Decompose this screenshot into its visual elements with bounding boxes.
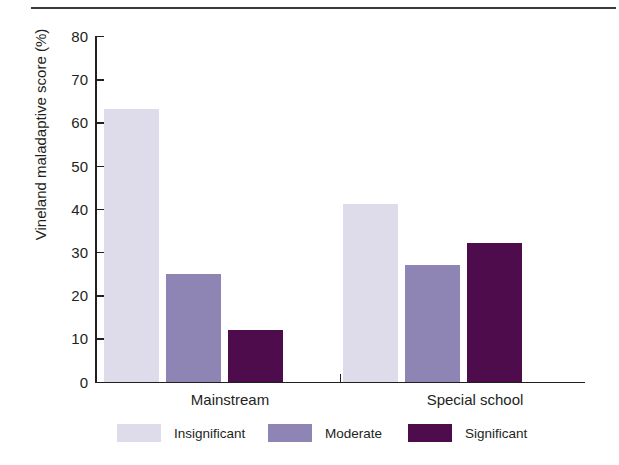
y-axis-tick bbox=[95, 295, 104, 296]
group-label-mainstream: Mainstream bbox=[150, 391, 310, 408]
y-axis-tick-label: 40 bbox=[71, 202, 88, 217]
plot-area bbox=[95, 36, 585, 383]
y-axis-tick bbox=[95, 79, 104, 80]
group-separator-tick bbox=[340, 374, 341, 383]
y-axis-tick-label: 60 bbox=[71, 115, 88, 130]
top-divider-rule bbox=[31, 7, 616, 9]
legend-swatch-insignificant bbox=[117, 424, 161, 442]
y-axis-tick-label: 80 bbox=[71, 29, 88, 44]
legend-item-moderate: Moderate bbox=[268, 424, 382, 442]
y-axis-tick bbox=[95, 166, 104, 167]
bar-insignificant-special-school bbox=[343, 204, 398, 381]
y-axis-tick bbox=[95, 382, 104, 383]
bar-moderate-special-school bbox=[405, 265, 460, 382]
group-label-special-school: Special school bbox=[390, 391, 560, 408]
legend-swatch-significant bbox=[408, 424, 452, 442]
legend-label-moderate: Moderate bbox=[325, 426, 382, 441]
y-axis-tick bbox=[95, 252, 104, 253]
y-axis-tick-labels: 01020304050607080 bbox=[55, 36, 88, 383]
y-axis-tick bbox=[95, 122, 104, 123]
bar-chart-figure: 01020304050607080 Vineland maladaptive s… bbox=[0, 0, 619, 465]
legend-swatch-moderate bbox=[268, 424, 312, 442]
y-axis-title: Vineland maladaptive score (%) bbox=[32, 0, 49, 285]
y-axis-tick-label: 20 bbox=[71, 288, 88, 303]
y-axis-tick-label: 50 bbox=[71, 159, 88, 174]
legend-item-insignificant: Insignificant bbox=[117, 424, 245, 442]
legend-item-significant: Significant bbox=[408, 424, 527, 442]
y-axis-tick bbox=[95, 209, 104, 210]
y-axis-tick bbox=[95, 36, 104, 37]
y-axis-tick-label: 0 bbox=[80, 375, 88, 390]
y-axis-tick-label: 10 bbox=[71, 331, 88, 346]
legend-label-insignificant: Insignificant bbox=[174, 426, 245, 441]
chart-legend: Insignificant Moderate Significant bbox=[0, 424, 619, 454]
bar-significant-special-school bbox=[467, 243, 522, 381]
legend-label-significant: Significant bbox=[465, 426, 527, 441]
y-axis-tick-label: 30 bbox=[71, 245, 88, 260]
y-axis-tick-label: 70 bbox=[71, 72, 88, 87]
bar-significant-mainstream bbox=[228, 330, 283, 382]
bar-moderate-mainstream bbox=[166, 274, 221, 382]
y-axis-tick bbox=[95, 338, 104, 339]
bar-insignificant-mainstream bbox=[104, 109, 159, 381]
